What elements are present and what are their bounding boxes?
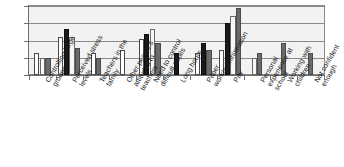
y-tick-mark [24, 58, 28, 59]
x-tick-mark [83, 76, 84, 80]
bar [201, 43, 206, 75]
y-tick-mark [24, 41, 28, 42]
y-tick-mark [24, 75, 28, 76]
x-tick-mark [136, 76, 137, 80]
x-tick-mark [163, 76, 164, 80]
bar [252, 58, 257, 75]
bar [34, 53, 39, 75]
y-tick-mark [24, 6, 28, 7]
x-tick-mark [324, 76, 325, 80]
x-tick-mark [217, 76, 218, 80]
x-tick-mark [297, 76, 298, 80]
x-tick-mark [56, 76, 57, 80]
x-axis-category-labels: Controlling largegroupsPerceived stressl… [28, 80, 325, 167]
bar [40, 58, 45, 75]
x-tick-mark [29, 76, 30, 80]
x-tick-mark [244, 76, 245, 80]
x-tick-mark [109, 76, 110, 80]
y-tick-mark [24, 23, 28, 24]
x-tick-mark [270, 76, 271, 80]
x-tick-mark [190, 76, 191, 80]
